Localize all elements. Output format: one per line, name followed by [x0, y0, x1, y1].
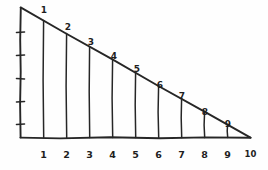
x-axis-label-8: 8: [201, 149, 208, 160]
vertical-divider-7: [181, 99, 182, 138]
vertical-divider-5: [135, 72, 136, 137]
triangle-diagram-figure: 1 2 3 4 5 6 7 8 9 1 2 3 4 5 6 7 8 9 10: [0, 0, 268, 170]
hypotenuse-label-8: 8: [202, 107, 208, 117]
x-axis-label-1: 1: [40, 149, 47, 160]
diagram-canvas: 1 2 3 4 5 6 7 8 9 1 2 3 4 5 6 7 8 9 10: [0, 0, 268, 170]
x-axis-label-6: 6: [155, 149, 162, 160]
y-axis-tick: [17, 124, 25, 125]
vertical-divider-3: [89, 46, 90, 137]
x-axis-label-2: 2: [63, 149, 70, 160]
hypotenuse-label-7: 7: [179, 91, 185, 101]
x-axis-label-9: 9: [224, 149, 231, 160]
hypotenuse-label-2: 2: [65, 22, 71, 32]
x-axis-label-group: 1 2 3 4 5 6 7 8 9 10: [40, 149, 256, 160]
y-axis-tick: [17, 102, 25, 103]
vertical-divider-group: [43, 20, 228, 137]
x-axis-label-10: 10: [245, 149, 257, 159]
hypotenuse-label-1: 1: [41, 5, 47, 15]
hypotenuse-label-9: 9: [225, 119, 231, 129]
y-axis-line: [20, 8, 21, 138]
x-axis-label-5: 5: [132, 149, 139, 160]
y-axis-tick: [17, 79, 25, 80]
y-axis-tick: [17, 55, 25, 56]
vertical-divider-1: [43, 20, 44, 137]
x-axis-label-3: 3: [86, 149, 93, 160]
hypotenuse-label-5: 5: [134, 64, 140, 74]
vertical-divider-6: [158, 86, 159, 138]
x-axis-label-7: 7: [178, 149, 185, 160]
x-axis-label-4: 4: [109, 149, 116, 160]
vertical-divider-4: [112, 59, 113, 137]
hypotenuse-label-6: 6: [157, 80, 163, 90]
hypotenuse-label-4: 4: [111, 51, 117, 61]
hypotenuse-label-3: 3: [88, 37, 94, 47]
y-axis-tick: [17, 32, 25, 33]
vertical-divider-2: [66, 33, 67, 137]
